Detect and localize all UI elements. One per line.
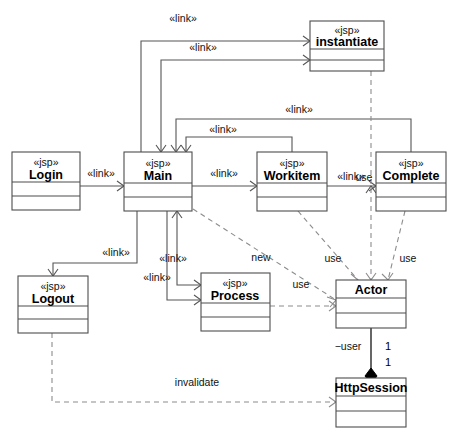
class-name: HttpSession bbox=[335, 381, 408, 395]
uml-class-diagram: «jsp» instantiate «jsp» Login «jsp» Main… bbox=[0, 0, 449, 437]
edge-label-role-user: −user bbox=[335, 340, 362, 352]
class-name: Login bbox=[29, 168, 63, 182]
class-box-complete[interactable]: «jsp» Complete bbox=[376, 152, 446, 211]
class-box-login[interactable]: «jsp» Login bbox=[12, 152, 80, 210]
class-box-instantiate[interactable]: «jsp» instantiate bbox=[310, 21, 384, 71]
edge-process-main bbox=[172, 211, 201, 290]
edge-label-link-main-process-a: «link» bbox=[159, 252, 187, 264]
class-box-logout[interactable]: «jsp» Logout bbox=[18, 276, 88, 333]
edge-label-link-workitem-main: «link» bbox=[209, 123, 237, 135]
edge-label-mult-top: 1 bbox=[385, 340, 391, 352]
edge-label-link-main-workitem: «link» bbox=[210, 167, 238, 179]
edge-label-mult-bottom: 1 bbox=[385, 356, 391, 368]
edge-main-logout bbox=[48, 211, 137, 276]
edge-label-use-workitem: use bbox=[325, 252, 342, 264]
edge-label-link-main-process-b: «link» bbox=[143, 271, 171, 283]
edge-label-invalidate: invalidate bbox=[175, 376, 220, 388]
class-box-main[interactable]: «jsp» Main bbox=[124, 152, 192, 211]
edge-main-workitem bbox=[192, 181, 257, 191]
edge-complete-actor-use bbox=[382, 211, 405, 280]
edge-logout-httpsession bbox=[52, 333, 336, 407]
class-name: Workitem bbox=[264, 169, 321, 183]
edge-workitem-main bbox=[181, 137, 292, 152]
class-stereotype: «jsp» bbox=[279, 157, 304, 169]
edge-label-use-complete: use bbox=[400, 252, 417, 264]
class-name: Complete bbox=[383, 169, 440, 183]
edge-label-link-complete-main: «link» bbox=[285, 103, 313, 115]
class-box-httpsession[interactable]: HttpSession bbox=[335, 378, 408, 427]
edge-workitem-actor-use bbox=[298, 211, 358, 283]
edge-label-new: new bbox=[251, 251, 271, 263]
class-box-process[interactable]: «jsp» Process bbox=[201, 273, 270, 331]
class-stereotype: «jsp» bbox=[33, 156, 58, 168]
class-name: Process bbox=[211, 289, 260, 303]
edge-process-actor-use bbox=[270, 301, 336, 311]
class-name: Main bbox=[144, 169, 172, 183]
edge-complete-main bbox=[171, 119, 411, 152]
class-box-workitem[interactable]: «jsp» Workitem bbox=[257, 152, 327, 211]
edge-label-link-main-logout: «link» bbox=[102, 246, 130, 258]
class-name: Logout bbox=[32, 292, 75, 306]
edge-label-use-instantiate: use bbox=[356, 171, 373, 183]
edge-label-link-login-main: «link» bbox=[87, 167, 115, 179]
edge-label-link-main-instantiate: «link» bbox=[169, 12, 197, 24]
class-name: instantiate bbox=[316, 35, 379, 49]
edge-label-use-process: use bbox=[293, 278, 310, 290]
class-stereotype: «jsp» bbox=[398, 157, 423, 169]
class-stereotype: «jsp» bbox=[222, 277, 247, 289]
edge-login-main bbox=[80, 181, 124, 191]
class-stereotype: «jsp» bbox=[145, 157, 170, 169]
diagram-canvas: «jsp» instantiate «jsp» Login «jsp» Main… bbox=[0, 0, 449, 437]
class-box-actor[interactable]: Actor bbox=[336, 280, 406, 328]
edge-actor-httpsession-composition bbox=[365, 328, 377, 384]
edge-label-link-instantiate-main: «link» bbox=[189, 41, 217, 53]
class-name: Actor bbox=[355, 283, 388, 297]
class-stereotype: «jsp» bbox=[40, 280, 65, 292]
